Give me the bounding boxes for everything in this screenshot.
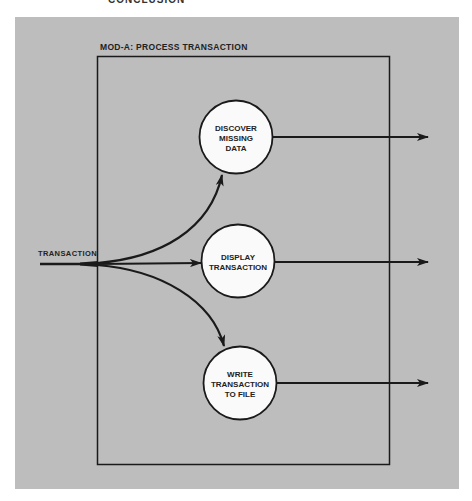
bubble-label-line: TRANSACTION: [209, 263, 267, 272]
bubble-label-line: TRANSACTION: [211, 380, 269, 389]
bubble-label-line: DISPLAY: [221, 253, 256, 262]
module-title: MOD-A: PROCESS TRANSACTION: [100, 42, 248, 52]
flow-arrow-to-display: [97, 263, 201, 264]
bubble-label-line: DISCOVER: [215, 124, 257, 133]
flow-junction: [80, 261, 98, 267]
bubble-label-line: DATA: [225, 144, 246, 153]
bubble-label-line: MISSING: [219, 134, 253, 143]
process-bubble-discover: DISCOVER MISSING DATA: [200, 101, 273, 174]
dataflow-diagram: MOD-A: PROCESS TRANSACTION TRANSACTION D…: [0, 0, 472, 501]
bubble-label-line: WRITE: [227, 370, 253, 379]
process-bubble-write: WRITE TRANSACTION TO FILE: [204, 347, 277, 420]
process-bubble-display: DISPLAY TRANSACTION: [202, 225, 275, 298]
bubble-label-line: TO FILE: [225, 390, 256, 399]
input-label: TRANSACTION: [38, 249, 97, 258]
